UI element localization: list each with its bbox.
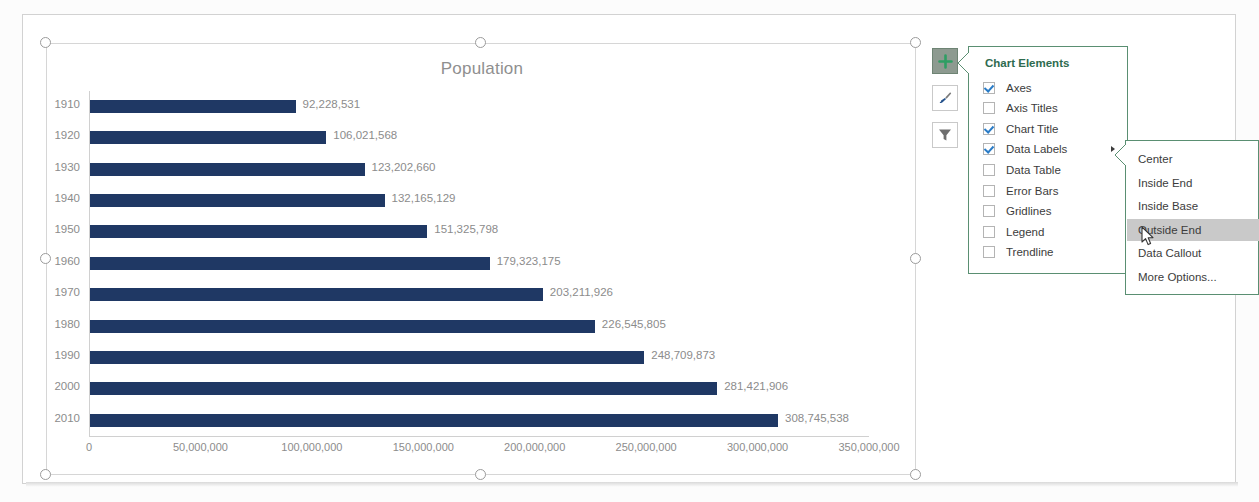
bar[interactable] <box>90 320 595 333</box>
bar-row: 1920106,021,568 <box>89 122 869 153</box>
chart-element-item-axis-titles[interactable]: Axis Titles <box>983 98 1129 119</box>
chart-title[interactable]: Population <box>47 59 917 79</box>
chart-element-label: Gridlines <box>1006 205 1051 217</box>
chart-element-item-gridlines[interactable]: Gridlines <box>983 201 1129 222</box>
chart-element-item-trendline[interactable]: Trendline <box>983 242 1129 263</box>
submenu-item-inside-base[interactable]: Inside Base <box>1127 195 1259 217</box>
bar[interactable] <box>90 131 326 144</box>
chart-element-item-chart-title[interactable]: Chart Title <box>983 118 1129 139</box>
bar-row: 1950151,325,798 <box>89 216 869 247</box>
selection-handle-top-center[interactable] <box>475 37 486 48</box>
category-axis-label: 1910 <box>29 98 89 110</box>
value-axis-tick-label: 100,000,000 <box>281 441 342 453</box>
data-label[interactable]: 281,421,906 <box>717 380 788 392</box>
bar-row: 1960179,323,175 <box>89 248 869 279</box>
funnel-icon <box>937 127 953 143</box>
data-label[interactable]: 308,745,538 <box>778 412 849 424</box>
panel-callout-arrow <box>958 52 969 74</box>
category-axis-label: 2000 <box>29 380 89 392</box>
data-label[interactable]: 106,021,568 <box>326 129 397 141</box>
data-label[interactable]: 132,165,129 <box>385 192 456 204</box>
data-label[interactable]: 151,325,798 <box>427 223 498 235</box>
selection-handle-bottom-right[interactable] <box>910 469 921 480</box>
checkbox-unchecked-icon[interactable] <box>983 226 995 238</box>
chart-element-item-legend[interactable]: Legend <box>983 221 1129 242</box>
selection-handle-bottom-left[interactable] <box>40 469 51 480</box>
checkbox-unchecked-icon[interactable] <box>983 164 995 176</box>
selection-handle-middle-right[interactable] <box>910 253 921 264</box>
bar-row: 1940132,165,129 <box>89 185 869 216</box>
category-axis-label: 1990 <box>29 349 89 361</box>
submenu-item-data-callout[interactable]: Data Callout <box>1127 242 1259 264</box>
data-labels-submenu[interactable]: CenterInside EndInside BaseOutside EndDa… <box>1125 140 1259 295</box>
category-axis-label: 1950 <box>29 223 89 235</box>
bar[interactable] <box>90 288 543 301</box>
data-label[interactable]: 92,228,531 <box>296 98 361 110</box>
data-label[interactable]: 123,202,660 <box>365 161 436 173</box>
data-label[interactable]: 248,709,873 <box>644 349 715 361</box>
submenu-item-center[interactable]: Center <box>1127 148 1259 170</box>
data-label[interactable]: 179,323,175 <box>490 255 561 267</box>
selection-handle-top-left[interactable] <box>40 37 51 48</box>
chart-element-item-axes[interactable]: Axes <box>983 77 1129 98</box>
value-axis-tick-label: 300,000,000 <box>727 441 788 453</box>
bar-row: 1930123,202,660 <box>89 154 869 185</box>
selection-handle-middle-left[interactable] <box>40 253 51 264</box>
category-axis-label: 1930 <box>29 161 89 173</box>
chart-element-item-data-labels[interactable]: Data Labels <box>983 139 1129 160</box>
value-axis-tick-label: 0 <box>86 441 92 453</box>
chart-styles-button[interactable] <box>932 85 958 111</box>
bar[interactable] <box>90 382 717 395</box>
value-axis-tick-label: 350,000,000 <box>838 441 899 453</box>
data-label[interactable]: 203,211,926 <box>543 286 613 298</box>
chart-elements-panel[interactable]: Chart Elements AxesAxis TitlesChart Titl… <box>968 46 1128 274</box>
chart-element-label: Axis Titles <box>1006 102 1058 114</box>
checkbox-checked-icon[interactable] <box>983 82 995 94</box>
checkbox-unchecked-icon[interactable] <box>983 246 995 258</box>
bar-row: 191092,228,531 <box>89 91 869 122</box>
chart-filters-button[interactable] <box>932 122 958 148</box>
checkbox-checked-icon[interactable] <box>983 123 995 135</box>
bar-row: 1990248,709,873 <box>89 342 869 373</box>
bar-row: 1980226,545,805 <box>89 311 869 342</box>
paintbrush-icon <box>937 90 953 106</box>
chart-element-item-error-bars[interactable]: Error Bars <box>983 180 1129 201</box>
value-axis-line <box>89 436 869 437</box>
checkbox-unchecked-icon[interactable] <box>983 185 995 197</box>
submenu-item-outside-end[interactable]: Outside End <box>1127 219 1259 241</box>
selection-handle-bottom-center[interactable] <box>475 469 486 480</box>
bar[interactable] <box>90 225 427 238</box>
chart-element-item-data-table[interactable]: Data Table <box>983 159 1129 180</box>
panel-title: Chart Elements <box>985 57 1069 69</box>
checkbox-checked-icon[interactable] <box>983 143 995 155</box>
category-axis-label: 1920 <box>29 129 89 141</box>
chart-element-label: Error Bars <box>1006 185 1058 197</box>
data-label[interactable]: 226,545,805 <box>595 318 666 330</box>
chart-element-label: Data Table <box>1006 164 1061 176</box>
category-axis-label: 2010 <box>29 412 89 424</box>
chart-object[interactable]: Population 191092,228,5311920106,021,568… <box>46 43 916 475</box>
bar-row: 1970203,211,926 <box>89 279 869 310</box>
chart-elements-button[interactable] <box>932 48 958 74</box>
selection-handle-top-right[interactable] <box>910 37 921 48</box>
category-axis-label: 1940 <box>29 192 89 204</box>
chart-element-label: Trendline <box>1006 246 1054 258</box>
chart-element-label: Chart Title <box>1006 123 1058 135</box>
bar[interactable] <box>90 163 365 176</box>
document-page: Population 191092,228,5311920106,021,568… <box>0 0 1259 502</box>
submenu-item-inside-end[interactable]: Inside End <box>1127 172 1259 194</box>
page-shadow <box>26 482 1238 487</box>
bar[interactable] <box>90 100 296 113</box>
bar[interactable] <box>90 194 385 207</box>
bar-row: 2010308,745,538 <box>89 405 869 436</box>
checkbox-unchecked-icon[interactable] <box>983 205 995 217</box>
checkbox-unchecked-icon[interactable] <box>983 102 995 114</box>
plot-area[interactable]: 191092,228,5311920106,021,5681930123,202… <box>89 91 869 436</box>
bar[interactable] <box>90 414 778 427</box>
submenu-callout-arrow <box>1115 144 1126 166</box>
value-axis-tick-label: 200,000,000 <box>504 441 565 453</box>
submenu-item-more-options[interactable]: More Options... <box>1127 266 1259 288</box>
bar[interactable] <box>90 257 490 270</box>
chart-element-label: Data Labels <box>1006 143 1067 155</box>
bar[interactable] <box>90 351 644 364</box>
